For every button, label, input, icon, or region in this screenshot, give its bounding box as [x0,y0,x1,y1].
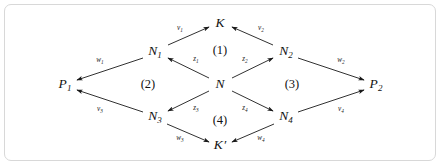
edge-label-subscript-w2: 2 [342,59,345,65]
edge-label-z2: z2 [242,56,247,64]
edge-label-subscript-z4: 4 [245,107,248,113]
node-subscript-P2: 2 [378,83,383,93]
edge-label-subscript-v2: 2 [261,27,264,33]
node-subscript-N3: 3 [157,115,162,125]
edge-label-v1: v1 [177,25,183,33]
node-P1: P1 [59,77,72,93]
edge-label-subscript-w1: 1 [101,59,104,65]
node-N1: N1 [148,44,162,60]
edge-label-subscript-z3: 3 [196,107,199,113]
node-N4: N4 [279,109,293,125]
node-Kp: K′ [214,138,226,152]
region-label-r3: (3) [285,78,300,91]
node-subscript-N4: 4 [288,115,293,125]
edge-label-subscript-z1: 1 [196,58,199,64]
edge-arrow-z3 [168,91,209,111]
node-N2: N2 [279,44,293,60]
edge-label-v4: v4 [338,106,344,114]
edge-arrow-z2 [232,58,273,78]
edge-arrow-v2 [232,27,273,45]
edge-arrow-z1 [168,58,209,78]
edge-label-w2: w2 [337,57,344,65]
edge-label-z4: z4 [242,105,247,113]
lattice-diagram: KN1N2P1NP2N3N4K′ v1v2w1w2v3v4z1z2z3z4w3w… [0,0,441,166]
edge-label-w4: w4 [257,135,264,143]
node-base-N4: N [279,108,288,123]
edge-label-z3: z3 [193,105,198,113]
node-base-K: K [215,15,224,30]
edge-arrow-w4 [232,124,274,142]
edge-arrow-w2 [298,58,364,80]
node-P2: P2 [370,77,383,93]
edge-arrow-w3 [167,124,209,142]
edge-label-subscript-v3: 3 [100,108,103,114]
edge-arrow-w1 [77,58,143,80]
node-base-N3: N [148,108,157,123]
node-K: K [215,16,224,30]
edge-label-w3: w3 [176,135,183,143]
node-N: N [215,77,224,91]
node-prime-Kp: ′ [223,137,226,152]
edge-label-z1: z1 [193,56,198,64]
region-label-r2: (2) [141,78,156,91]
edge-arrow-z4 [232,91,273,111]
region-label-r1: (1) [213,44,228,57]
edge-label-subscript-v1: 1 [180,27,183,33]
node-N3: N3 [148,109,162,125]
node-subscript-N2: 2 [288,50,293,60]
edge-label-v3: v3 [97,106,103,114]
node-base-N: N [215,76,224,91]
edge-label-v2: v2 [258,25,264,33]
edge-label-subscript-w3: 3 [181,137,184,143]
edge-label-subscript-w4: 4 [262,137,265,143]
edge-label-w1: w1 [96,57,103,65]
node-base-N2: N [279,43,288,58]
edge-label-subscript-z2: 2 [245,58,248,64]
edge-label-subscript-v4: 4 [341,108,344,114]
edge-arrow-v3 [77,90,143,112]
node-subscript-P1: 1 [67,83,72,93]
node-subscript-N1: 1 [157,50,162,60]
edge-arrow-v1 [168,27,209,45]
region-label-r4: (4) [213,114,228,127]
node-base-Kp: K [214,137,223,152]
node-base-N1: N [148,43,157,58]
edge-arrow-v4 [298,90,364,112]
